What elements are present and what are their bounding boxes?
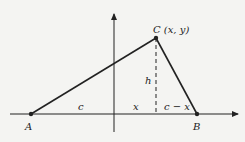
label-h: h — [145, 75, 151, 86]
label-c: C (x, y) — [153, 24, 189, 35]
label-b: B — [192, 121, 200, 132]
label-a: A — [24, 121, 32, 132]
point-a — [29, 112, 33, 116]
label-seg-c: c — [78, 101, 84, 112]
point-c — [154, 36, 158, 40]
point-b — [195, 112, 199, 116]
triangle-diagram: A B C (x, y) c x c − x h — [0, 0, 245, 142]
label-seg-x: x — [133, 101, 139, 112]
label-seg-c-minus-x: c − x — [164, 101, 190, 112]
